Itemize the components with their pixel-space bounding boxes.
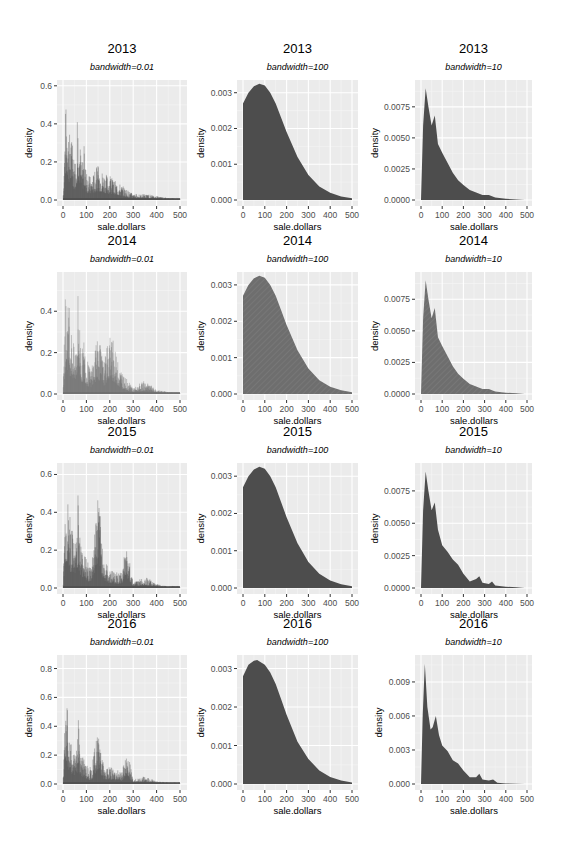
- x-tick-label: 500: [520, 210, 534, 220]
- x-tick-label: 100: [79, 598, 93, 608]
- y-tick-label: 0.0000: [384, 583, 410, 593]
- x-axis: 0100200300400500: [61, 206, 188, 220]
- y-tick-label: 0.6: [40, 81, 52, 91]
- x-tick-label: 400: [499, 598, 513, 608]
- facet-panel-2015-col3: 2015bandwidth=100.00000.00250.00500.0075…: [369, 424, 534, 620]
- x-tick-label: 100: [258, 794, 272, 804]
- x-tick-label: 100: [435, 598, 449, 608]
- x-axis-title: sale.dollars: [450, 805, 498, 816]
- y-tick-label: 0.002: [211, 702, 233, 712]
- y-tick-label: 0.002: [211, 508, 233, 518]
- x-tick-label: 500: [520, 794, 534, 804]
- y-tick-label: 0.6: [40, 469, 52, 479]
- y-tick-label: 0.003: [211, 664, 233, 674]
- y-axis: 0.0000.0010.0020.003: [211, 88, 237, 205]
- x-tick-label: 0: [419, 210, 424, 220]
- y-tick-label: 0.0025: [384, 164, 410, 174]
- x-tick-label: 200: [280, 598, 294, 608]
- y-axis-title: density: [195, 128, 206, 158]
- y-tick-label: 0.001: [211, 159, 233, 169]
- y-axis: 0.0000.0030.0060.009: [389, 677, 415, 789]
- y-axis-title: density: [369, 321, 380, 351]
- x-tick-label: 0: [419, 404, 424, 414]
- x-tick-label: 100: [79, 794, 93, 804]
- x-tick-label: 500: [520, 404, 534, 414]
- x-tick-label: 0: [61, 404, 66, 414]
- x-tick-label: 0: [241, 598, 246, 608]
- panel-title: 2015: [459, 424, 488, 439]
- panel-title: 2013: [283, 41, 312, 56]
- y-tick-label: 0.003: [389, 745, 411, 755]
- y-tick-label: 0.0050: [384, 518, 410, 528]
- y-tick-label: 0.2: [40, 157, 52, 167]
- x-tick-label: 300: [478, 404, 492, 414]
- y-tick-label: 0.2: [40, 348, 52, 358]
- x-tick-label: 200: [280, 794, 294, 804]
- y-axis-title: density: [23, 128, 34, 158]
- panel-subtitle: bandwidth=10: [445, 62, 501, 72]
- x-tick-label: 400: [499, 210, 513, 220]
- x-tick-label: 200: [456, 404, 470, 414]
- x-tick-label: 300: [126, 794, 140, 804]
- panel-title: 2014: [459, 233, 488, 248]
- x-tick-label: 100: [435, 404, 449, 414]
- panel-title: 2014: [108, 233, 137, 248]
- panel-subtitle: bandwidth=10: [445, 637, 501, 647]
- facet-panel-2014-col3: 2014bandwidth=100.00000.00250.00500.0075…: [369, 233, 534, 426]
- panel-subtitle: bandwidth=0.01: [90, 254, 154, 264]
- facet-panel-2016-col2: 2016bandwidth=1000.0000.0010.0020.003010…: [195, 616, 359, 816]
- x-axis-title: sale.dollars: [273, 805, 321, 816]
- x-axis: 0100200300400500: [241, 206, 360, 220]
- x-tick-label: 400: [323, 404, 337, 414]
- panel-subtitle: bandwidth=0.01: [90, 637, 154, 647]
- x-tick-label: 100: [79, 404, 93, 414]
- x-tick-label: 200: [103, 210, 117, 220]
- y-tick-label: 0.0000: [384, 389, 410, 399]
- x-tick-label: 0: [241, 404, 246, 414]
- x-tick-label: 200: [103, 794, 117, 804]
- y-tick-label: 0.0050: [384, 326, 410, 336]
- y-tick-label: 0.0: [40, 389, 52, 399]
- panel-title: 2013: [108, 41, 137, 56]
- x-tick-label: 200: [280, 404, 294, 414]
- x-tick-label: 200: [456, 210, 470, 220]
- x-tick-label: 500: [173, 794, 187, 804]
- x-tick-label: 0: [241, 794, 246, 804]
- panel-subtitle: bandwidth=10: [445, 254, 501, 264]
- panel-title: 2013: [459, 41, 488, 56]
- y-axis-title: density: [23, 321, 34, 351]
- y-tick-label: 0.003: [211, 280, 233, 290]
- x-tick-label: 300: [301, 210, 315, 220]
- y-tick-label: 0.4: [40, 507, 52, 517]
- y-axis-title: density: [23, 513, 34, 543]
- y-tick-label: 0.000: [211, 779, 233, 789]
- panel-subtitle: bandwidth=100: [267, 637, 328, 647]
- y-axis-title: density: [195, 321, 206, 351]
- x-tick-label: 500: [345, 210, 359, 220]
- x-tick-label: 100: [435, 794, 449, 804]
- x-tick-label: 100: [258, 404, 272, 414]
- y-tick-label: 0.0075: [384, 294, 410, 304]
- x-tick-label: 300: [126, 404, 140, 414]
- y-axis-title: density: [369, 128, 380, 158]
- x-tick-label: 0: [61, 598, 66, 608]
- x-axis: 0100200300400500: [241, 400, 360, 414]
- y-tick-label: 0.2: [40, 750, 52, 760]
- x-axis-title: sale.dollars: [273, 221, 321, 232]
- y-axis: 0.0000.0010.0020.003: [211, 664, 237, 789]
- panel-title: 2016: [108, 616, 137, 631]
- y-axis: 0.0000.0010.0020.003: [211, 280, 237, 399]
- y-axis-title: density: [23, 707, 34, 737]
- facet-panel-2016-col1: 2016bandwidth=0.010.00.20.40.60.80100200…: [23, 616, 187, 816]
- x-tick-label: 500: [173, 598, 187, 608]
- x-tick-label: 400: [150, 598, 164, 608]
- facet-panel-2015-col1: 2015bandwidth=0.010.00.20.40.60100200300…: [23, 424, 187, 620]
- y-tick-label: 0.000: [211, 389, 233, 399]
- y-tick-label: 0.6: [40, 692, 52, 702]
- y-tick-label: 0.4: [40, 119, 52, 129]
- facet-panel-2016-col3: 2016bandwidth=100.0000.0030.0060.0090100…: [373, 616, 534, 816]
- x-tick-label: 500: [345, 598, 359, 608]
- y-axis-title: density: [195, 707, 206, 737]
- y-tick-label: 0.001: [211, 546, 233, 556]
- x-tick-label: 300: [301, 598, 315, 608]
